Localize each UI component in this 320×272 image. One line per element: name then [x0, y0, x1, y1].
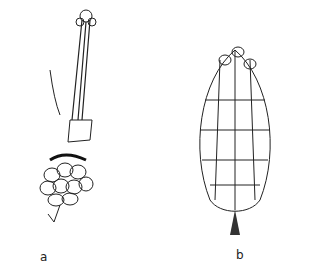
illustration-b [190, 40, 280, 240]
label-b: b [236, 248, 244, 262]
label-a: a [40, 250, 47, 264]
illustration-a [20, 0, 140, 230]
